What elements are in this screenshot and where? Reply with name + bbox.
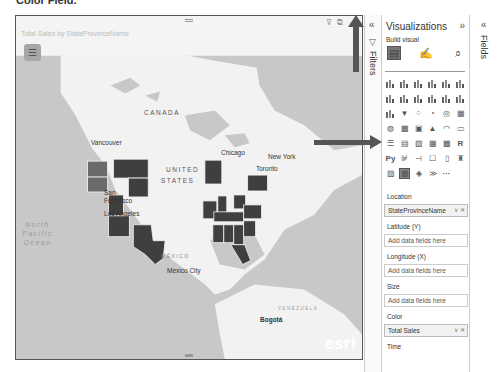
smart-narrative-icon[interactable]: ▯	[441, 153, 452, 164]
build-visual-label: Build visual	[386, 36, 419, 43]
city-label: Toronto	[256, 165, 278, 172]
100-column-chart-icon[interactable]	[455, 78, 466, 89]
stacked-bar-chart-icon[interactable]	[385, 78, 396, 89]
well-placeholder: Add data fields here	[388, 235, 446, 246]
key-influencers-icon[interactable]: ⊯	[399, 153, 410, 164]
visualizations-title: Visualizations	[386, 21, 447, 32]
annotation-arrow-right-shaft	[314, 140, 372, 145]
line-chart-icon[interactable]	[385, 93, 396, 104]
well-value: Total Sales	[388, 325, 420, 336]
city-label: Bogotá	[260, 316, 282, 323]
area-chart-icon[interactable]	[399, 93, 410, 104]
collapse-chevron-icon[interactable]: «	[481, 19, 487, 30]
filter-icon: ▽	[369, 37, 376, 47]
map-visual[interactable]: Total Sales by StateProvinceName ⊽ ⧉ ···…	[15, 15, 363, 360]
fields-pane-collapsed[interactable]: « Fields	[469, 15, 501, 372]
filters-pane-label[interactable]: Filters	[368, 51, 378, 76]
shape-map-icon[interactable]: ▣	[413, 123, 424, 134]
funnel-chart-icon[interactable]: ▼	[399, 108, 410, 119]
well-placeholder: Add data fields here	[388, 265, 446, 276]
filters-pane-collapsed[interactable]: « ▽ Filters	[364, 15, 381, 372]
city-label: San Francisco	[104, 189, 144, 205]
visualizations-pane: Visualizations » Build visual ▤ ✍ ⌕ ▼ ⁘ …	[381, 15, 468, 372]
annotation-arrow-right-icon	[370, 135, 382, 149]
stacked-area-chart-icon[interactable]	[413, 93, 424, 104]
well-color[interactable]: Total Sales ∨ ✕	[384, 324, 468, 337]
clustered-bar-chart-icon[interactable]	[413, 78, 424, 89]
table-icon[interactable]: ▦	[427, 138, 438, 149]
decomposition-tree-icon[interactable]: ⊣	[413, 153, 424, 164]
well-label-color: Color	[384, 310, 468, 324]
pane-divider	[385, 71, 465, 72]
well-controls-icon[interactable]: ∨ ✕	[454, 205, 467, 216]
well-label-location: Location	[384, 190, 468, 204]
more-visuals-icon[interactable]: ···	[441, 168, 452, 179]
annotation-arrow-up-shaft	[353, 24, 359, 72]
expand-chevron-icon[interactable]: »	[459, 20, 465, 31]
python-visual-icon[interactable]: Py	[385, 153, 396, 164]
matrix-icon[interactable]: ▩	[441, 138, 452, 149]
visual-resize-handle[interactable]	[185, 354, 193, 357]
focus-mode-icon[interactable]: ⧉	[337, 18, 343, 28]
donut-chart-icon[interactable]: ◎	[441, 108, 452, 119]
treemap-icon[interactable]: ▦	[455, 108, 466, 119]
gauge-icon[interactable]: ◠	[441, 123, 452, 134]
city-label: New York	[268, 153, 295, 160]
paginated-report-icon[interactable]: ▨	[385, 168, 396, 179]
city-label: Vancouver	[91, 139, 122, 146]
map-label-canada: CANADA	[144, 109, 180, 116]
well-controls-icon[interactable]: ∨ ✕	[454, 325, 467, 336]
well-longitude[interactable]: Add data fields here	[384, 264, 468, 277]
well-label-latitude: Latitude (Y)	[384, 220, 468, 234]
power-apps-icon[interactable]: ◈	[413, 168, 424, 179]
city-label: Chicago	[221, 149, 245, 156]
map-label-mexico: MÉXICO	[161, 253, 190, 259]
well-label-longitude: Longitude (X)	[384, 250, 468, 264]
kpi-icon[interactable]: ▤	[399, 138, 410, 149]
r-visual-icon[interactable]: R	[455, 138, 466, 149]
visual-title: Total Sales by StateProvinceName	[21, 30, 129, 37]
power-automate-icon[interactable]: ≫	[427, 168, 438, 179]
ocean-label-line: Ocean	[22, 238, 53, 247]
line-clustered-column-icon[interactable]	[427, 93, 438, 104]
filled-map-icon[interactable]: ▩	[399, 123, 410, 134]
well-location[interactable]: StateProvinceName ∨ ✕	[384, 204, 468, 217]
city-label: Los Angeles	[104, 210, 139, 217]
map-label-venezuela: VENEZUELA	[278, 306, 318, 311]
arcgis-map-icon[interactable]: ▩	[399, 168, 410, 179]
pie-chart-icon[interactable]: ◔	[427, 108, 438, 119]
card-icon[interactable]: ▭	[455, 123, 466, 134]
collapse-chevron-icon[interactable]: «	[369, 19, 375, 30]
map-label-states: STATES	[161, 177, 194, 184]
esri-logo: esri	[324, 335, 356, 353]
azure-map-icon[interactable]: ▲	[427, 123, 438, 134]
slicer-icon[interactable]: ▧	[413, 138, 424, 149]
qa-icon[interactable]: ☐	[427, 153, 438, 164]
waterfall-chart-icon[interactable]	[385, 108, 396, 119]
map-menu-button[interactable]: ☰	[24, 44, 41, 61]
stacked-column-chart-icon[interactable]	[399, 78, 410, 89]
format-visual-tab-icon[interactable]: ✍	[419, 46, 433, 60]
city-label: Mexico City	[167, 267, 201, 274]
build-tabs: ▤ ✍ ⌕	[384, 46, 468, 66]
build-visual-tab-icon[interactable]: ▤	[387, 46, 401, 60]
analytics-tab-icon[interactable]: ⌕	[451, 46, 465, 60]
fields-pane-label[interactable]: Fields	[479, 35, 489, 59]
well-label-size: Size	[384, 280, 468, 294]
well-value: StateProvinceName	[388, 205, 446, 216]
ribbon-chart-icon[interactable]	[455, 93, 466, 104]
ocean-label-line: North	[22, 220, 53, 229]
well-size[interactable]: Add data fields here	[384, 294, 468, 307]
visual-drag-grip[interactable]	[185, 19, 193, 22]
scatter-chart-icon[interactable]: ⁘	[413, 108, 424, 119]
well-latitude[interactable]: Add data fields here	[384, 234, 468, 247]
filter-icon[interactable]: ⊽	[326, 18, 332, 28]
map-icon[interactable]: ◍	[385, 123, 396, 134]
hamburger-icon: ☰	[28, 47, 37, 58]
ocean-label-line: Pacific	[22, 229, 53, 238]
clustered-column-chart-icon[interactable]	[427, 78, 438, 89]
goals-icon[interactable]: ♜	[455, 153, 466, 164]
line-stacked-column-icon[interactable]	[441, 93, 452, 104]
multi-row-card-icon[interactable]: ☰	[385, 138, 396, 149]
100-bar-chart-icon[interactable]	[441, 78, 452, 89]
